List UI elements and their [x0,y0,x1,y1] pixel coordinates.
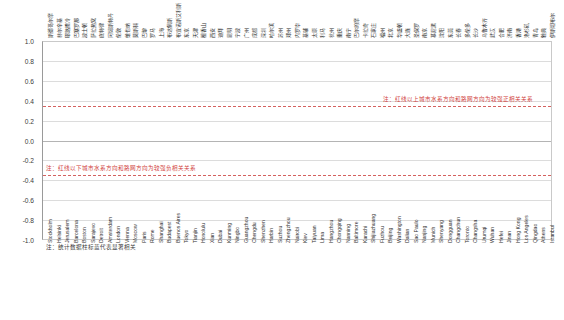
top-category-label: 巴塞罗那 [74,18,79,38]
top-category-label: 布宜诺斯艾利斯 [176,3,181,38]
top-category-label: 底特律 [99,23,104,38]
bottom-category-label: Wuhan [490,227,495,243]
y-axis-tick: 0.2 [25,117,34,124]
bottom-category-label: London [116,226,121,243]
bottom-category-label: Shijiazhuang [371,214,376,243]
bottom-category-label: Suzhou [278,226,283,243]
y-axis-tick: 0.4 [25,97,34,104]
top-category-label: 罗马 [150,28,155,38]
top-category-label: 雅典 [541,28,546,38]
top-category-label: 伦敦 [116,28,121,38]
bottom-category-label: Kunming [227,223,232,243]
negative-threshold-annotation: 注：红线以下城市水系方向和路网方向为较强负相关关系 [46,166,196,172]
top-category-label: 哈尔滨 [269,23,274,38]
top-category-label: 迪拜 [218,28,223,38]
top-category-label: 杭州 [329,28,334,38]
top-category-label: 青岛 [533,28,538,38]
top-category-label: 长春 [456,28,461,38]
bottom-category-label: Nairobi [295,227,300,243]
bottom-category-label: Helsinki [57,225,62,243]
top-category-label: 昆明 [227,28,232,38]
top-category-label: 莫斯科 [133,23,138,38]
top-category-label: 长沙 [473,28,478,38]
bottom-category-label: Barcelona [74,220,79,243]
top-category-label: 苏州 [278,28,283,38]
top-category-label: 萨拉热窝 [91,18,96,38]
bar-series [43,42,551,239]
bottom-category-label: Paris [142,231,147,243]
bottom-category-label: Baltimore [354,221,359,243]
bottom-category-labels: StockholmHelsinkiJerusalemBarcelonaBosto… [42,241,552,320]
bottom-category-label: Washington [397,216,402,243]
bottom-category-label: Lima [320,232,325,243]
top-category-label: 成都 [252,28,257,38]
bottom-category-label: Harbin [269,228,274,243]
top-category-label: 耶路撒冷 [65,18,70,38]
top-category-labels: 斯德哥尔摩赫尔辛基耶路撒冷巴塞罗那波士顿萨拉热窝底特律阿姆斯特丹伦敦维也纳莫斯科… [42,0,552,41]
top-category-label: 东京 [184,28,189,38]
bottom-category-label: Xian [210,233,215,243]
bottom-category-label: Moscow [133,224,138,243]
bottom-category-label: Dalian [405,229,410,243]
top-category-label: 深圳 [261,28,266,38]
top-category-label: 慕尼黑 [431,23,436,38]
bottom-category-label: Dubai [218,230,223,243]
bottom-category-label: Sarajevo [91,223,96,243]
top-category-label: 东莞 [448,28,453,38]
top-category-label: 基辅 [303,28,308,38]
y-axis-tick: -1.0 [23,237,34,244]
y-axis-tick: 0.8 [25,57,34,64]
top-category-label: 宁波 [235,28,240,38]
bottom-category-label: Jerusalem [65,220,70,244]
top-category-label: 大连 [405,28,410,38]
bottom-category-label: Los Angeles [524,215,529,243]
top-category-label: 西安 [210,28,215,38]
footnote: 注：统计数据柱标蓝代表显著相关 [46,245,136,251]
bottom-category-label: Karachi [363,226,368,243]
top-category-label: 太原 [312,28,317,38]
y-axis-tick: 0.6 [25,77,34,84]
bottom-category-label: Shenzhen [261,220,266,243]
top-category-label: 武汉 [490,28,495,38]
top-category-label: 郑州 [286,28,291,38]
top-category-label: 檀香山 [201,23,206,38]
bottom-category-label: Stockholm [48,219,53,243]
y-axis-tick: 1.0 [25,38,34,45]
plot-area [42,41,552,240]
top-category-label: 上海 [159,28,164,38]
bottom-category-label: Dongguan [448,219,453,243]
top-category-label: 利马 [320,28,325,38]
y-axis-tick: -0.6 [23,197,34,204]
y-axis-tick: -0.8 [23,217,34,224]
bottom-category-label: Guangzhou [244,217,249,243]
top-category-label: 布达佩斯 [167,18,172,38]
top-category-label: 斯德哥尔摩 [48,13,53,38]
top-category-label: 重庆 [337,28,342,38]
bottom-category-label: Qingdao [533,224,538,243]
bottom-category-label: Buenos Aires [176,213,181,243]
bottom-category-label: Tianjin [193,228,198,243]
bottom-category-label: Changchun [456,217,461,243]
top-category-label: 南京 [422,28,427,38]
top-category-label: 波士顿 [82,23,87,38]
top-category-label: 卡拉奇 [363,23,368,38]
bottom-category-label: Hangzhou [329,220,334,243]
bottom-category-label: Boston [82,227,87,243]
bottom-category-label: Istanbul [550,225,555,243]
top-category-label: 赫尔辛基 [57,18,62,38]
correlation-bar-chart: 1.00.80.60.40.20.0-0.2-0.4-0.6-0.8-1.0 斯… [0,0,564,320]
bottom-category-label: Budapest [167,221,172,243]
top-category-label: 巴尔的摩 [354,18,359,38]
top-category-label: 南宁 [346,28,351,38]
bottom-category-label: Kiev [303,233,308,243]
bottom-category-label: Zhengzhou [286,218,291,244]
bottom-category-label: Changsha [473,220,478,243]
bottom-category-label: Chengdu [252,222,257,243]
bottom-category-label: Fuzhou [380,226,385,243]
bottom-category-label: Ningbo [235,227,240,243]
bottom-category-label: Shenyang [439,220,444,243]
top-category-label: 多伦多 [465,23,470,38]
positive-threshold-line [43,106,551,107]
top-category-label: 香港 [516,28,521,38]
y-axis: 1.00.80.60.40.20.0-0.2-0.4-0.6-0.8-1.0 [0,41,38,240]
